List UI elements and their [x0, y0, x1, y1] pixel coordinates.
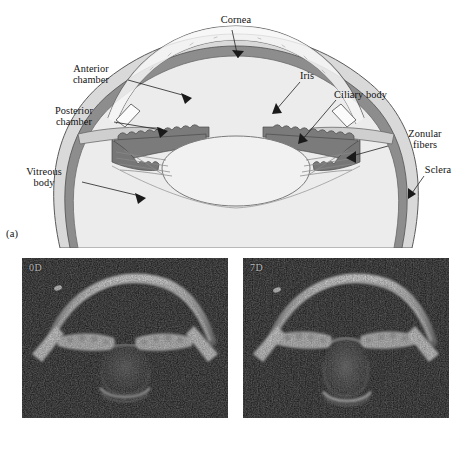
- oct-scan-7d: 7D: [243, 258, 449, 418]
- panel-tag-a: (a): [6, 228, 18, 239]
- label-sclera: Sclera: [410, 164, 466, 175]
- oct-label-0d: 0D: [29, 262, 42, 273]
- panel-b-oct-scans: 0D: [0, 248, 472, 450]
- oct-label-7d: 7D: [250, 262, 263, 273]
- label-zonular-fibers: Zonular fibers: [390, 128, 460, 151]
- label-iris: Iris: [300, 70, 340, 81]
- label-anterior-chamber: Anterior chamber: [54, 63, 128, 86]
- panel-a-eye-schematic: Cornea Anterior chamber Posterior chambe…: [0, 0, 472, 248]
- oct-image-0d: [22, 258, 228, 418]
- oct-speckle-noise-0d: [22, 258, 228, 418]
- oct-image-7d: [243, 258, 449, 418]
- oct-scan-0d: 0D: [22, 258, 228, 418]
- figure-root: Cornea Anterior chamber Posterior chambe…: [0, 0, 472, 450]
- label-vitreous-body: Vitreous body: [8, 166, 80, 189]
- label-cornea: Cornea: [196, 14, 276, 25]
- label-ciliary-body: Ciliary body: [334, 89, 414, 100]
- label-posterior-chamber: Posterior chamber: [36, 105, 112, 128]
- crystalline-lens-shape: [162, 136, 310, 206]
- oct-speckle-noise-7d: [243, 258, 449, 418]
